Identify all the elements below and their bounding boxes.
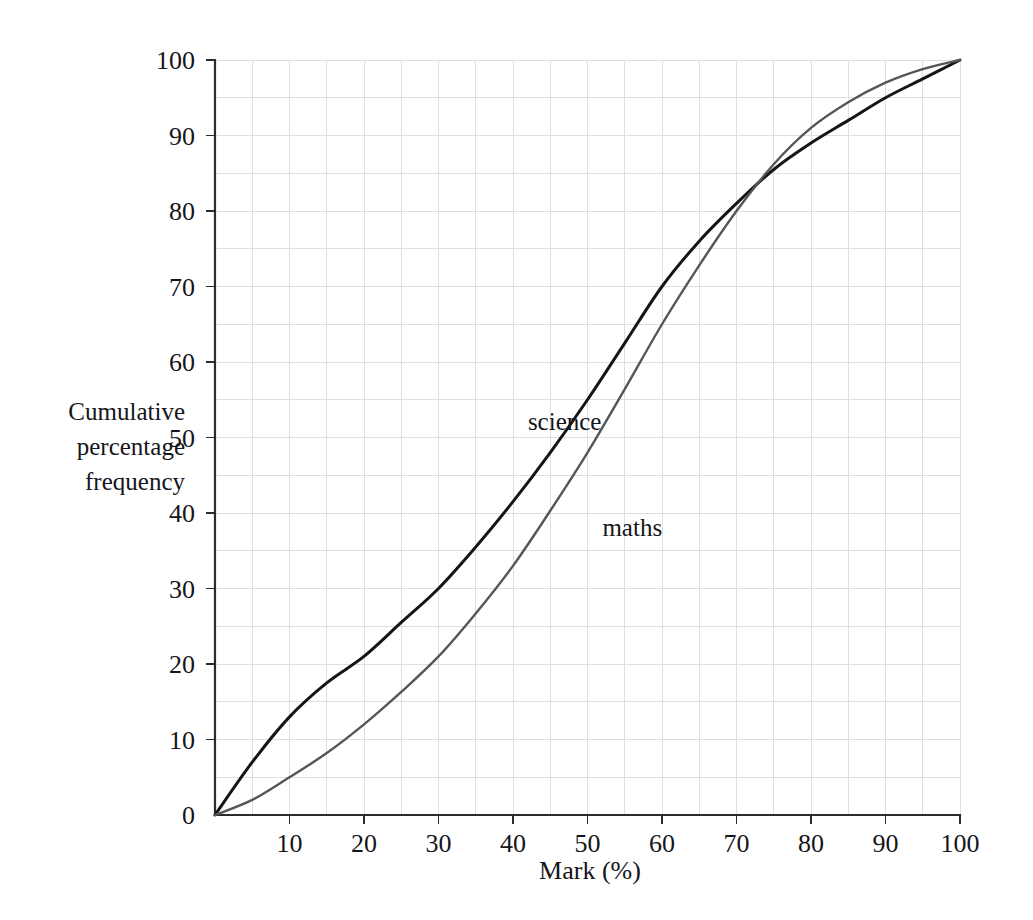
y-tick-label: 70 <box>169 273 195 302</box>
y-axis-title-line-3: frequency <box>85 468 185 495</box>
y-tick-label: 10 <box>169 726 195 755</box>
series-label-maths: maths <box>602 514 662 541</box>
x-tick-label: 10 <box>277 829 303 858</box>
y-tick-label: 20 <box>169 650 195 679</box>
x-tick-label: 30 <box>426 829 452 858</box>
y-axis-title-line-1: Cumulative <box>68 398 185 425</box>
x-tick-label: 90 <box>873 829 899 858</box>
series-label-science: science <box>528 408 602 435</box>
y-axis-title: Cumulative percentage frequency <box>68 398 185 495</box>
y-axis-title-line-2: percentage <box>77 433 185 460</box>
cumulative-frequency-chart: 0102030405060708090100 10203040506070809… <box>0 0 1033 920</box>
chart-background <box>0 0 1033 920</box>
y-tick-label: 30 <box>169 575 195 604</box>
x-tick-label: 50 <box>575 829 601 858</box>
y-tick-label: 40 <box>169 499 195 528</box>
chart-container: 0102030405060708090100 10203040506070809… <box>0 0 1033 920</box>
x-tick-label: 40 <box>500 829 526 858</box>
gridlines <box>215 60 960 815</box>
x-tick-label: 100 <box>941 829 980 858</box>
x-tick-label: 70 <box>724 829 750 858</box>
y-tick-label: 80 <box>169 197 195 226</box>
x-tick-label: 0 <box>182 801 195 830</box>
y-tick-label: 100 <box>156 46 195 75</box>
x-tick-label: 20 <box>351 829 377 858</box>
x-tick-label: 60 <box>649 829 675 858</box>
x-axis-title: Mark (%) <box>539 856 641 885</box>
y-tick-label: 60 <box>169 348 195 377</box>
y-tick-label: 90 <box>169 122 195 151</box>
x-tick-label: 80 <box>798 829 824 858</box>
